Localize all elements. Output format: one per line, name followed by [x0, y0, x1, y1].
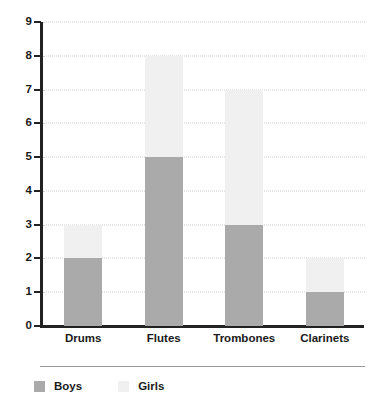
bar-segment-girls[interactable] [225, 90, 263, 225]
chart-legend: Boys Girls [34, 378, 164, 394]
y-tick-label: 2 [14, 253, 32, 265]
bar-segment-girls[interactable] [145, 56, 183, 157]
y-tick-label: 3 [14, 219, 32, 231]
y-axis-tick-labels: 0123456789 [8, 0, 32, 340]
bar-segment-boys[interactable] [145, 157, 183, 326]
bar-segment-girls[interactable] [306, 258, 344, 292]
x-tick-label-trombones: Trombones [213, 332, 275, 344]
stacked-bar-chart: 0123456789 DrumsFlutesTrombonesClarinets… [0, 0, 380, 405]
legend-item-girls[interactable]: Girls [118, 380, 164, 392]
bar-segment-girls[interactable] [64, 225, 102, 259]
legend-swatch-girls [118, 381, 129, 392]
bar-segment-boys[interactable] [225, 225, 263, 326]
y-tick-label: 9 [14, 16, 32, 28]
y-tick-label: 8 [14, 50, 32, 62]
bar-group[interactable] [306, 22, 344, 326]
legend-swatch-boys [34, 381, 45, 392]
bars-layer [43, 0, 365, 326]
legend-item-boys[interactable]: Boys [34, 380, 82, 392]
plot-area: 0123456789 DrumsFlutesTrombonesClarinets [0, 0, 380, 340]
legend-label-girls: Girls [138, 380, 164, 392]
x-tick-label-drums: Drums [65, 332, 101, 344]
bar-group[interactable] [64, 22, 102, 326]
bar-segment-boys[interactable] [306, 292, 344, 326]
x-tick-label-clarinets: Clarinets [300, 332, 349, 344]
bar-group[interactable] [225, 22, 263, 326]
bar-group[interactable] [145, 22, 183, 326]
y-tick-label: 5 [14, 151, 32, 163]
bar-segment-boys[interactable] [64, 258, 102, 326]
y-tick-label: 7 [14, 84, 32, 96]
x-tick-label-flutes: Flutes [147, 332, 181, 344]
y-tick-label: 6 [14, 118, 32, 130]
y-tick-label: 1 [14, 286, 32, 298]
y-tick-label: 0 [14, 320, 32, 332]
x-axis-tick-labels: DrumsFlutesTrombonesClarinets [43, 332, 365, 354]
y-tick-label: 4 [14, 185, 32, 197]
legend-separator [40, 366, 365, 367]
legend-label-boys: Boys [54, 380, 82, 392]
